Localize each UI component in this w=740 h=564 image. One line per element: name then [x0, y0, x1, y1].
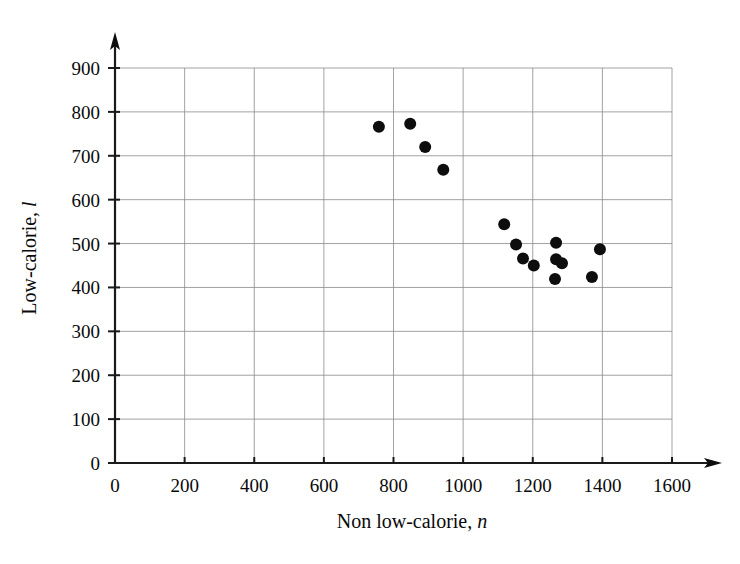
x-tick-label: 200 — [170, 475, 199, 496]
data-point — [419, 141, 431, 153]
data-point — [556, 257, 568, 269]
data-point — [594, 243, 606, 255]
data-point — [550, 237, 562, 249]
y-tick-label: 300 — [72, 321, 101, 342]
x-axis-variable-symbol: n — [477, 510, 487, 532]
axes — [110, 32, 722, 468]
chart-page: 02004006008001000120014001600 0100200300… — [0, 0, 740, 564]
y-tick-label: 400 — [72, 277, 101, 298]
data-point — [437, 164, 449, 176]
y-tick-label: 600 — [72, 190, 101, 211]
y-axis-title: Low-calorie, l — [18, 201, 40, 315]
x-tick-label: 1000 — [444, 475, 482, 496]
x-tick-label: 600 — [310, 475, 339, 496]
x-tick-label: 1200 — [514, 475, 552, 496]
x-axis-title: Non low-calorie, n — [337, 510, 488, 532]
y-tick-label: 900 — [72, 58, 101, 79]
y-axis-tick-labels: 0100200300400500600700800900 — [72, 58, 101, 474]
scatter-plot: 02004006008001000120014001600 0100200300… — [0, 0, 740, 564]
x-axis-tick-labels: 02004006008001000120014001600 — [110, 475, 691, 496]
data-point — [517, 252, 529, 264]
data-point — [373, 121, 385, 133]
data-point — [404, 118, 416, 130]
y-axis-variable-symbol: l — [18, 201, 40, 207]
y-tick-label: 800 — [72, 102, 101, 123]
y-tick-label: 0 — [91, 453, 101, 474]
y-tick-label: 700 — [72, 146, 101, 167]
y-tick-label: 100 — [72, 409, 101, 430]
data-point — [586, 271, 598, 283]
y-tick-label: 200 — [72, 365, 101, 386]
data-point — [528, 260, 540, 272]
data-point — [498, 218, 510, 230]
x-tick-label: 400 — [240, 475, 269, 496]
y-tick-label: 500 — [72, 234, 101, 255]
data-point — [510, 238, 522, 250]
x-tick-label: 1400 — [583, 475, 621, 496]
data-point — [549, 273, 561, 285]
x-tick-label: 1600 — [653, 475, 691, 496]
vertical-gridlines — [185, 68, 672, 463]
x-tick-label: 800 — [379, 475, 408, 496]
x-tick-label: 0 — [110, 475, 120, 496]
data-points — [373, 118, 606, 285]
